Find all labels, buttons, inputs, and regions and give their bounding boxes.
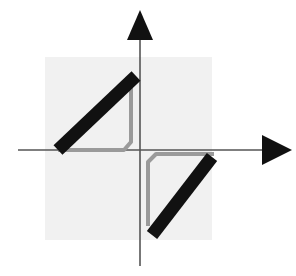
x-axis-arrowhead <box>262 135 292 165</box>
hysteresis-figure <box>0 0 296 276</box>
y-axis-arrowhead <box>127 10 153 40</box>
figure-canvas <box>0 0 296 276</box>
